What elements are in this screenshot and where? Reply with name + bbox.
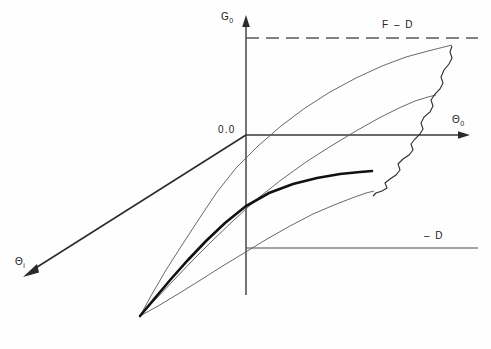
upper-asymptote-label: F – D bbox=[382, 19, 414, 30]
curve-middle-saturating bbox=[140, 95, 436, 316]
curve-noisy-boundary bbox=[373, 46, 452, 196]
curve-lower-saturating bbox=[140, 191, 374, 316]
vertical-axis-label: G0 bbox=[221, 11, 233, 24]
horizontal-axis-label-subscript: 0 bbox=[460, 120, 464, 127]
diagonal-axis-arrowhead bbox=[23, 264, 39, 277]
horizontal-axis-label-text: Θ bbox=[452, 114, 460, 125]
diagonal-axis-label-text: Θ bbox=[15, 256, 23, 267]
curve-bold-response bbox=[140, 171, 372, 316]
horizontal-axis bbox=[246, 131, 470, 139]
origin-value-label: 0.0 bbox=[218, 124, 236, 135]
curve-upper-saturating bbox=[140, 45, 452, 316]
diagonal-axis-label-subscript: i bbox=[23, 262, 25, 269]
figure-container: G0 Θ0 Θi 0.0 F – D – D bbox=[0, 0, 491, 349]
horizontal-axis-arrowhead bbox=[458, 131, 470, 139]
horizontal-axis-label: Θ0 bbox=[452, 114, 464, 127]
vertical-axis-label-text: G bbox=[221, 11, 229, 22]
diagram-canvas bbox=[0, 0, 491, 349]
diagonal-axis-label: Θi bbox=[15, 256, 25, 269]
lower-reference-label: – D bbox=[424, 230, 444, 241]
vertical-axis-label-subscript: 0 bbox=[229, 17, 233, 24]
vertical-axis-arrowhead bbox=[242, 15, 250, 27]
diagonal-axis bbox=[23, 135, 246, 277]
